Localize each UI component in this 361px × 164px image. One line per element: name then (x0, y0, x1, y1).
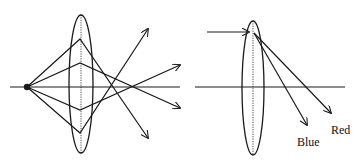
light-ray-4 (27, 29, 148, 133)
blue-label: Blue (297, 136, 320, 148)
chromatic-dispersion-diagram (195, 21, 345, 155)
light-ray-1 (27, 39, 148, 138)
red-label: Red (331, 124, 350, 136)
point-source-focusing-diagram (10, 15, 180, 153)
point-source-dot (24, 84, 30, 90)
light-ray-2 (27, 63, 180, 108)
